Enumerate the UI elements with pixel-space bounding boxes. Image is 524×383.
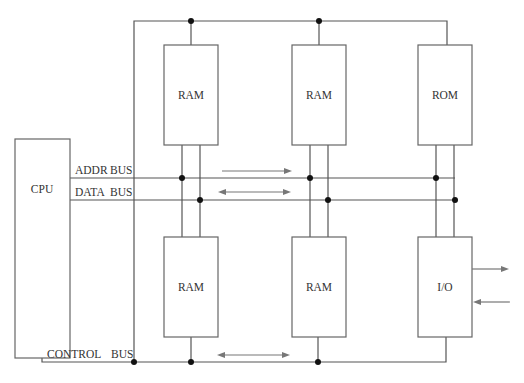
junction-dot	[452, 197, 458, 203]
ram-bottom-1-label: RAM	[178, 281, 204, 293]
io-label: I/O	[437, 281, 452, 293]
addr-direction-arrow-icon	[222, 168, 292, 174]
junction-dot	[188, 18, 194, 24]
junction-dot	[433, 175, 439, 181]
data-bus-label-b: BUS	[110, 186, 132, 198]
ram-bottom-2-label: RAM	[306, 281, 332, 293]
ram-top-1-label: RAM	[178, 89, 204, 101]
junction-dot	[325, 197, 331, 203]
io-input-arrow-icon	[473, 299, 510, 305]
control-bidirectional-arrow-icon	[217, 352, 290, 358]
cpu-label: CPU	[31, 183, 54, 195]
junction-dot	[315, 359, 321, 365]
addr-bus-label-b: BUS	[110, 164, 132, 176]
control-bus-line	[42, 242, 446, 362]
control-bus-label-b: BUS	[111, 348, 133, 360]
control-bus-label-a: CONTROL	[47, 348, 101, 360]
ram-top-2-label: RAM	[306, 89, 332, 101]
bus-diagram: CPU RAM RAM ROM RAM RAM I/O ADDR BUS DAT…	[0, 0, 524, 383]
junction-dot	[179, 175, 185, 181]
junction-dot	[307, 175, 313, 181]
cpu-block	[15, 139, 70, 358]
junction-dot	[197, 197, 203, 203]
rom-label: ROM	[432, 89, 458, 101]
junction-dot	[188, 359, 194, 365]
data-bus-label-a: DATA	[75, 186, 105, 198]
io-output-arrow-icon	[472, 266, 509, 272]
junction-dot	[316, 18, 322, 24]
addr-bus-label-a: ADDR	[75, 164, 108, 176]
data-bidirectional-arrow-icon	[218, 189, 291, 195]
